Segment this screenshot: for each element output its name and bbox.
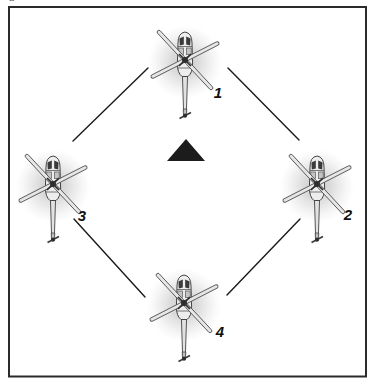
formation-link-4-2	[227, 219, 300, 295]
position-label-2: 2	[343, 206, 353, 223]
helicopter-3-icon	[15, 148, 91, 243]
formation-link-3-4	[74, 219, 145, 297]
position-label-3: 3	[78, 207, 87, 224]
helicopter-4-icon	[146, 267, 222, 362]
clipped-figure-label: a	[9, 0, 19, 4]
formation-link-1-2	[228, 68, 299, 140]
position-label-1: 1	[214, 84, 222, 101]
helicopter-1-icon	[147, 24, 223, 119]
formation-link-3-1	[73, 68, 148, 141]
helicopters	[15, 24, 355, 362]
clipped-figure-label-text: a	[9, 0, 19, 3]
position-label-4: 4	[215, 323, 225, 340]
formation-diagram: 1234	[0, 0, 371, 384]
landing-point-triangle	[167, 139, 205, 161]
figure-canvas: a	[0, 0, 371, 384]
